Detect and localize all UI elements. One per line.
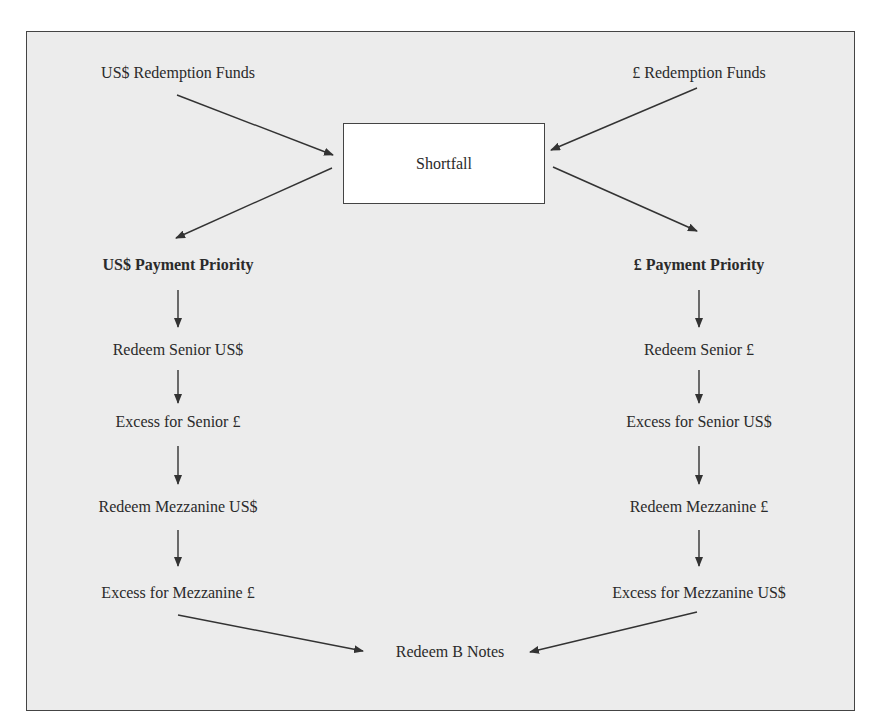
arrow-us-funds-to-shortfall-icon — [177, 95, 333, 155]
arrow-left-to-b-notes-icon — [178, 615, 363, 651]
arrow-gbp-funds-to-shortfall-icon — [551, 88, 697, 150]
arrow-shortfall-to-gbp-priority-icon — [553, 167, 697, 231]
arrow-shortfall-to-us-priority-icon — [176, 168, 332, 238]
arrow-right-to-b-notes-icon — [530, 612, 697, 652]
